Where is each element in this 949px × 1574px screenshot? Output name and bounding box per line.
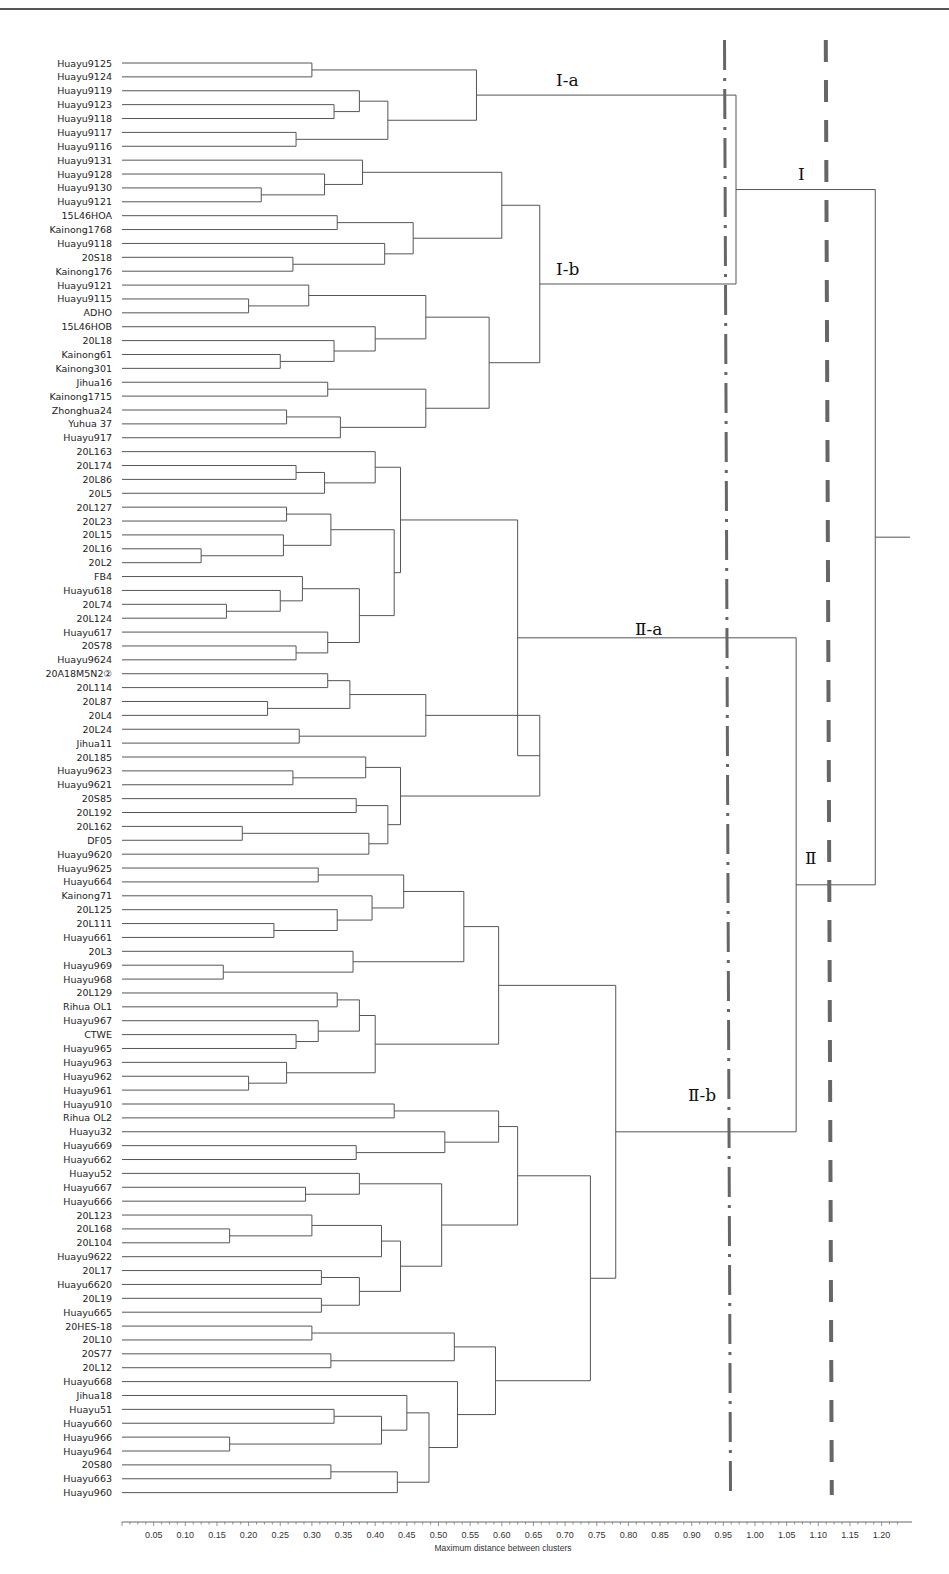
leaf-label: Huayu965 — [63, 1043, 112, 1054]
leaf-label: 20S18 — [82, 252, 112, 263]
leaf-label: 15L46HOA — [62, 210, 113, 221]
leaf-label: Huayu963 — [63, 1057, 112, 1068]
threshold-lines — [725, 40, 832, 1495]
leaf-label: Huayu9118 — [57, 113, 112, 124]
leaf-label: Kainong1715 — [49, 391, 112, 402]
leaf-label: Huayu668 — [63, 1376, 112, 1387]
cluster-labels: Ⅰ-a Ⅰ-b Ⅰ Ⅱ-a Ⅱ Ⅱ-b — [556, 70, 817, 1105]
leaf-label: Kainong176 — [55, 266, 112, 277]
leaf-label: 20L3 — [89, 946, 112, 957]
leaf-label: 20L168 — [76, 1223, 112, 1234]
x-tick-label: 1.05 — [778, 1530, 796, 1540]
leaf-label: Rihua OL1 — [63, 1001, 112, 1012]
leaf-label: Huayu669 — [63, 1140, 112, 1151]
leaf-label: 20L124 — [76, 613, 112, 624]
leaf-label: 20L111 — [76, 918, 112, 929]
leaf-label: Huayu52 — [69, 1168, 112, 1179]
x-tick-label: 0.55 — [461, 1530, 479, 1540]
leaf-label: 20L192 — [76, 807, 112, 818]
leaf-label: Huayu961 — [63, 1085, 112, 1096]
leaf-label: Kainong61 — [62, 349, 113, 360]
leaf-label: Huayu6620 — [57, 1279, 112, 1290]
leaf-label: 20L18 — [83, 335, 112, 346]
leaf-label: Huayu962 — [63, 1071, 112, 1082]
leaf-label: 20L162 — [76, 821, 112, 832]
leaf-label: CTWE — [84, 1029, 112, 1040]
leaf-label: 20L19 — [83, 1293, 112, 1304]
leaf-label: Huayu964 — [63, 1446, 112, 1457]
leaf-label: Huayu969 — [63, 960, 112, 971]
leaf-label: 20L2 — [89, 557, 112, 568]
x-tick-label: 0.80 — [620, 1530, 638, 1540]
leaf-label: 20L24 — [83, 724, 112, 735]
cluster-label-IIa: Ⅱ-a — [635, 619, 662, 639]
leaf-label: Huayu9121 — [57, 280, 112, 291]
x-tick-label: 0.35 — [335, 1530, 353, 1540]
leaf-label: Huayu9621 — [57, 779, 112, 790]
leaf-label: 20L86 — [83, 474, 112, 485]
leaf-label: Kainong301 — [55, 363, 112, 374]
cluster-label-Ia: Ⅰ-a — [556, 70, 579, 90]
x-tick-label: 0.10 — [177, 1530, 195, 1540]
leaf-label: Jihua16 — [76, 377, 112, 388]
leaf-label: 20L104 — [76, 1237, 112, 1248]
leaf-label: 20L127 — [76, 502, 112, 513]
cluster-label-IIb: Ⅱ-b — [688, 1085, 716, 1105]
leaf-label: Huayu662 — [63, 1154, 112, 1165]
leaf-label: ADHO — [84, 307, 112, 318]
x-tick-label: 0.05 — [145, 1530, 163, 1540]
dash-dot-threshold-line — [725, 40, 731, 1495]
cluster-label-I: Ⅰ — [798, 164, 805, 184]
x-tick-label: 0.75 — [588, 1530, 606, 1540]
leaf-label: Huayu9625 — [57, 863, 112, 874]
x-tick-label: 0.30 — [303, 1530, 321, 1540]
leaf-label: 20L5 — [89, 488, 112, 499]
leaf-label: Huayu661 — [63, 932, 112, 943]
leaf-label: 20S78 — [82, 640, 112, 651]
leaf-label: Huayu9121 — [57, 196, 112, 207]
leaf-label: Huayu9620 — [57, 849, 112, 860]
leaf-label: Huayu9125 — [57, 58, 112, 69]
leaf-label: Huayu32 — [69, 1126, 112, 1137]
leaf-label: Huayu618 — [63, 585, 112, 596]
leaf-label: 20A18M5N2② — [45, 668, 112, 679]
leaf-label: Huayu667 — [63, 1182, 112, 1193]
leaf-label: Huayu968 — [63, 974, 112, 985]
leaf-label: 20L123 — [76, 1210, 112, 1221]
leaf-label: Yuhua 37 — [67, 418, 112, 429]
leaf-label: 20L114 — [76, 682, 112, 693]
leaf-label: Huayu960 — [63, 1487, 112, 1498]
leaf-label: Kainong71 — [62, 890, 113, 901]
leaf-label: 20S80 — [82, 1459, 112, 1470]
cluster-label-Ib: Ⅰ-b — [556, 259, 579, 279]
leaf-label: Huayu666 — [63, 1196, 112, 1207]
leaf-label: Huayu910 — [63, 1099, 112, 1110]
leaf-label: FB4 — [94, 571, 112, 582]
x-tick-label: 1.00 — [746, 1530, 764, 1540]
x-tick-label: 1.10 — [810, 1530, 828, 1540]
leaf-label: Huayu917 — [63, 432, 112, 443]
leaf-label: Huayu9119 — [57, 85, 112, 96]
dendrogram-branches — [122, 63, 910, 1493]
leaf-label: 20L74 — [83, 599, 112, 610]
leaf-label: Huayu9124 — [57, 71, 112, 82]
x-tick-label: 0.90 — [683, 1530, 701, 1540]
x-axis: 0.050.100.150.200.250.300.350.400.450.50… — [122, 1522, 912, 1540]
leaf-label: 20L125 — [76, 904, 112, 915]
leaf-label: Huayu664 — [63, 876, 112, 887]
x-tick-label: 0.45 — [398, 1530, 416, 1540]
leaf-label: Jihua11 — [76, 738, 112, 749]
leaf-label: Huayu9131 — [57, 155, 112, 166]
x-tick-label: 1.15 — [841, 1530, 859, 1540]
x-tick-label: 0.95 — [715, 1530, 733, 1540]
leaf-label: Huayu617 — [63, 627, 112, 638]
leaf-label: 20HES-18 — [65, 1321, 112, 1332]
leaf-labels: Huayu9125Huayu9124Huayu9119Huayu9123Huay… — [45, 58, 112, 1499]
leaf-label: DF05 — [87, 835, 112, 846]
leaf-label: Huayu665 — [63, 1307, 112, 1318]
x-tick-label: 0.25 — [271, 1530, 289, 1540]
leaf-label: Huayu9123 — [57, 99, 112, 110]
x-tick-label: 0.65 — [525, 1530, 543, 1540]
x-tick-label: 0.50 — [430, 1530, 448, 1540]
leaf-label: Huayu9622 — [57, 1251, 112, 1262]
